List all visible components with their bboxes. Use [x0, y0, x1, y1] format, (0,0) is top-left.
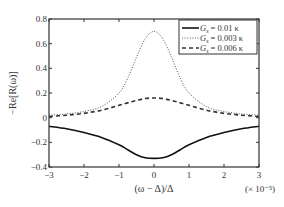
y-tick-label: 0.4 — [36, 63, 48, 73]
x-axis-multiplier: (× 10⁻⁵) — [245, 184, 275, 194]
line-chart: −3−2−10123−0.4−0.200.20.40.60.8 Gs = 0.0… — [0, 0, 284, 207]
x-tick-label: 2 — [222, 170, 227, 180]
y-tick-label: −0.2 — [31, 137, 47, 147]
y-tick-label: 0.8 — [36, 14, 48, 24]
y-tick-label: 0.2 — [36, 88, 47, 98]
x-tick-label: −1 — [114, 170, 124, 180]
x-axis-label: (ω − Δ)/Δ — [135, 183, 175, 195]
y-tick-label: 0.6 — [36, 39, 48, 49]
x-tick-label: 1 — [187, 170, 192, 180]
y-tick-label: 0 — [43, 113, 48, 123]
series-curve-solid — [49, 126, 259, 158]
series-curve-dashed — [49, 98, 259, 117]
x-tick-label: 3 — [257, 170, 262, 180]
x-tick-label: 0 — [152, 170, 157, 180]
y-tick-label: −0.4 — [31, 162, 48, 172]
chart-legend: Gs = 0.01 κGs = 0.003 κGs = 0.006 κ — [179, 20, 257, 54]
x-tick-label: −2 — [79, 170, 89, 180]
y-axis-label: −Re[R(ω)] — [7, 71, 19, 114]
